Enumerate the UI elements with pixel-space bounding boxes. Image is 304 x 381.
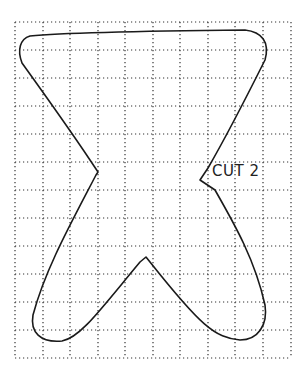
cut-instruction-label: CUT 2 bbox=[212, 162, 259, 180]
pattern-outline bbox=[20, 30, 267, 341]
pattern-diagram bbox=[0, 0, 304, 381]
dotted-grid bbox=[15, 22, 291, 358]
